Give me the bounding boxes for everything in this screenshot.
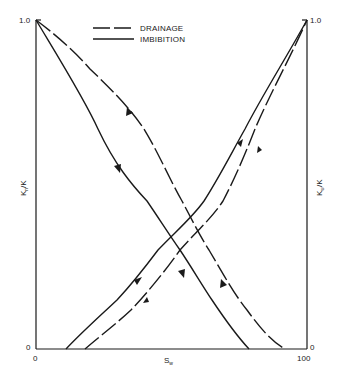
y-right-bottom-tick-label: 0 — [310, 343, 315, 352]
axes — [36, 20, 307, 349]
svg-text:Kw/K: Kw/K — [315, 179, 325, 196]
direction-arrows — [114, 107, 262, 303]
kn-drainage-arrow-up-icon — [126, 107, 133, 116]
legend-imbibition-label: IMBIBITION — [140, 35, 185, 44]
svg-text:Kn/K: Kn/K — [19, 180, 29, 196]
y-right-top-tick-label: 1.0 — [310, 16, 322, 25]
svg-text:Sw: Sw — [164, 356, 173, 366]
kw-drainage-arrow-down-icon-2 — [257, 146, 262, 153]
kw-imbibition-arrow-up-icon-2 — [237, 139, 243, 147]
kn-imbibition-curve — [36, 20, 249, 349]
kw-drainage-curve — [85, 20, 307, 349]
x-left-tick-label: 0 — [33, 354, 38, 363]
y-left-top-tick-label: 1.0 — [19, 16, 31, 25]
legend-drainage-label: DRAINAGE — [140, 24, 183, 33]
kn-drainage-curve — [36, 20, 285, 349]
relative-permeability-chart: 1.0 0 0 1.0 0 100 Sw Kn/K Kw/K DRAINAGE … — [0, 0, 344, 387]
x-axis-title: Sw — [164, 356, 173, 366]
legend: DRAINAGE IMBIBITION — [93, 24, 185, 44]
kn-imbibition-arrow-down-icon-2 — [178, 269, 185, 278]
right-axis-title: Kw/K — [315, 179, 325, 196]
kw-imbibition-curve — [66, 20, 307, 349]
kw-drainage-arrow-down-icon — [143, 297, 149, 303]
x-right-tick-label: 100 — [297, 354, 311, 363]
left-axis-title: Kn/K — [19, 180, 29, 196]
kn-imbibition-arrow-down-icon — [114, 164, 121, 173]
kn-drainage-arrow-up-icon-2 — [220, 279, 227, 288]
y-left-bottom-tick-label: 0 — [26, 343, 31, 352]
